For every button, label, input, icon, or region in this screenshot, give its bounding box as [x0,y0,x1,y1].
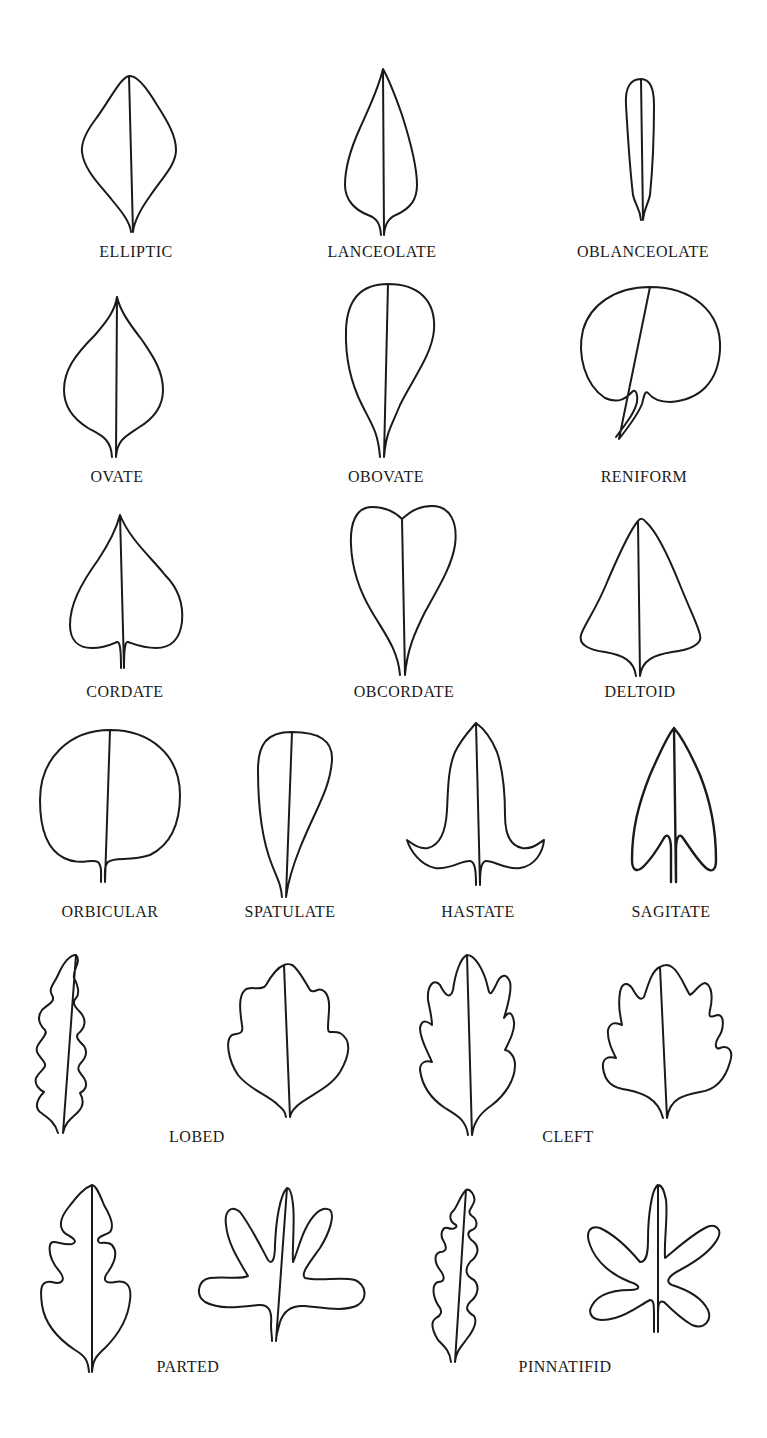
cleft-leaf-icon-1 [420,955,515,1135]
label-deltoid: DELTOID [604,683,675,701]
reniform-leaf-icon [581,287,720,439]
parted-leaf-icon-2 [199,1188,365,1341]
sagitate-leaf-icon [632,728,716,882]
label-elliptic: ELLIPTIC [99,243,172,261]
elliptic-leaf-icon [82,76,176,232]
obovate-leaf-icon [346,284,434,457]
oblanceolate-leaf-icon [626,79,654,220]
label-obcordate: OBCORDATE [354,683,455,701]
label-obovate: OBOVATE [348,468,424,486]
cordate-leaf-icon [70,515,182,668]
label-oblanceolate: OBLANCEOLATE [577,243,709,261]
label-hastate: HASTATE [441,903,514,921]
lobed-leaf-icon-2 [228,964,348,1117]
label-orbicular: ORBICULAR [62,903,159,921]
pinnatifid-leaf-icon-2 [588,1185,719,1332]
label-sagitate: SAGITATE [631,903,710,921]
pinnatifid-leaf-icon-1 [432,1190,477,1362]
orbicular-leaf-icon [40,730,180,882]
lobed-leaf-icon-1 [36,955,86,1133]
ovate-leaf-icon [64,297,163,457]
label-lobed: LOBED [169,1128,225,1146]
label-spatulate: SPATULATE [244,903,335,921]
deltoid-leaf-icon [581,519,701,676]
label-reniform: RENIFORM [601,468,688,486]
spatulate-leaf-icon [258,732,332,897]
obcordate-leaf-icon [351,506,456,675]
label-cordate: CORDATE [86,683,163,701]
label-lanceolate: LANCEOLATE [328,243,437,261]
leaf-shapes-diagram [0,0,767,1438]
label-cleft: CLEFT [542,1128,593,1146]
label-parted: PARTED [157,1358,220,1376]
cleft-leaf-icon-2 [603,965,731,1118]
lanceolate-leaf-icon [345,69,417,235]
label-pinnatifid: PINNATIFID [519,1358,612,1376]
label-ovate: OVATE [91,468,144,486]
hastate-leaf-icon [407,723,544,885]
parted-leaf-icon-1 [41,1185,130,1372]
